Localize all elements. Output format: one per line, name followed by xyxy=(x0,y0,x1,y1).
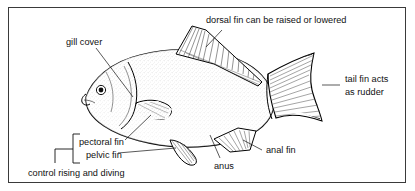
label-gill-cover: gill cover xyxy=(66,37,102,47)
label-pelvic-fin: pelvic fin xyxy=(86,150,122,160)
tail-fin xyxy=(267,53,322,121)
figure-page: dorsal fin can be raised or lowered gill… xyxy=(0,0,415,191)
grouping-bracket xyxy=(55,134,80,163)
label-tail-fin-line2: as rudder xyxy=(345,87,384,97)
label-pectoral-fin: pectoral fin xyxy=(79,137,124,147)
fish-anatomy-diagram: dorsal fin can be raised or lowered gill… xyxy=(0,0,415,191)
label-dorsal-fin: dorsal fin can be raised or lowered xyxy=(206,15,346,25)
eye xyxy=(96,85,105,94)
label-tail-fin-line1: tail fin acts xyxy=(345,74,389,84)
leader-pelvic-fin xyxy=(118,148,176,153)
label-anal-fin: anal fin xyxy=(266,145,296,155)
label-bracket-caption: control rising and diving xyxy=(28,168,125,178)
label-anus: anus xyxy=(214,161,234,171)
